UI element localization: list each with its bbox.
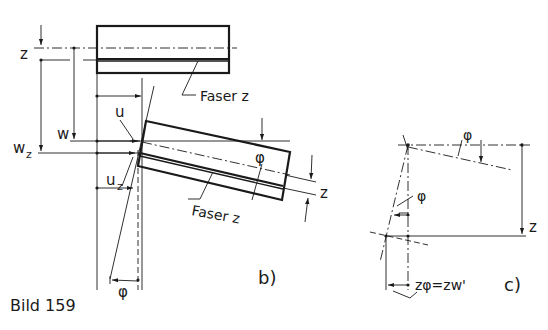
phi-top-label: φ [463,127,472,143]
uz-subscript: z [117,180,123,193]
figure-caption: Bild 159 [10,296,76,315]
rotated-angle-label: φ [255,149,265,167]
part-b-label: b) [258,267,276,288]
z-right-label: z [320,184,328,202]
beam-deflection-diagram: Faser z z w w z u u z [0,0,548,330]
uz-label: u [106,171,116,189]
c-z-label: z [529,218,537,236]
rotated-beam [130,121,290,200]
wz-subscript: z [26,148,32,161]
u-label: u [115,103,125,121]
rotated-fiber-label: Faser z [190,202,241,226]
phi-bottom-label: φ [118,283,128,301]
upper-beam [34,26,237,95]
part-c: φ φ z zφ=zw' c) [370,127,537,298]
phi-mid-label: φ [417,188,426,204]
z-top-label: z [20,45,28,63]
w-label: w [57,125,69,143]
upper-fiber-label: Faser z [200,88,249,104]
part-c-label: c) [504,274,521,295]
equation-label: zφ=zw' [415,277,466,293]
wz-label: w [13,139,25,157]
part-b: Faser z z w w z u u z [13,25,328,301]
